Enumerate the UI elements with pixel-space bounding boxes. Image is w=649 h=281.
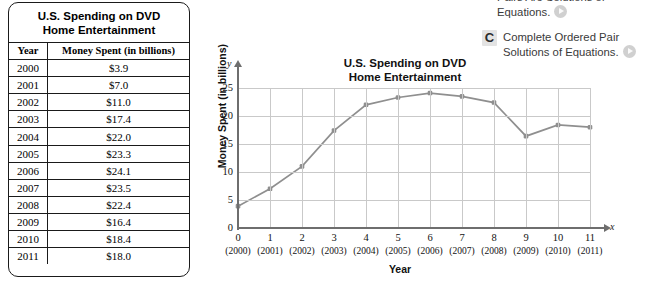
x-tick-label: 7 [445, 232, 479, 243]
cell-year: 2006 [9, 162, 48, 179]
gridline-vertical [526, 88, 527, 228]
chart-series-svg [238, 88, 590, 228]
x-tick-sublabel: (2011) [570, 246, 610, 256]
cell-year: 2008 [9, 196, 48, 213]
x-tick-label: 1 [253, 232, 287, 243]
table-row: 2005$23.3 [9, 145, 189, 162]
gridline-vertical [302, 88, 303, 228]
table-row: 2001$7.0 [9, 77, 189, 94]
table-row: 2010$18.4 [9, 231, 189, 248]
table-body: 2000$3.92001$7.02002$11.02003$17.42004$2… [9, 60, 189, 265]
cell-year: 2001 [9, 77, 48, 94]
table-row: 2002$11.0 [9, 94, 189, 111]
cell-money-spent: $11.0 [48, 94, 190, 111]
lesson-item-c-line1: Complete Ordered Pair [503, 30, 649, 45]
plot-area [238, 88, 590, 228]
cell-year: 2005 [9, 145, 48, 162]
x-tick-label: 11 [573, 232, 607, 243]
cell-money-spent: $22.0 [48, 128, 190, 145]
x-tick-label: 4 [349, 232, 383, 243]
gridline-vertical [430, 88, 431, 228]
table-row: 2008$22.4 [9, 196, 189, 213]
cell-year: 2003 [9, 111, 48, 128]
gridline-vertical [398, 88, 399, 228]
column-header-year: Year [9, 43, 48, 60]
table-title-line2: Home Entertainment [13, 23, 185, 37]
cell-money-spent: $24.1 [48, 162, 190, 179]
cell-money-spent: $7.0 [48, 77, 190, 94]
x-tick-label: 2 [285, 232, 319, 243]
gridline-vertical [334, 88, 335, 228]
table-title: U.S. Spending on DVD Home Entertainment [9, 3, 189, 43]
cell-money-spent: $3.9 [48, 60, 190, 77]
cell-money-spent: $17.4 [48, 111, 190, 128]
gridline-horizontal [238, 144, 590, 145]
lesson-item-partial-text: Pairs Are Solutions of Equations. [497, 0, 649, 20]
x-tick-label: 8 [477, 232, 511, 243]
x-axis-title: Year [320, 263, 480, 275]
cell-money-spent: $16.4 [48, 213, 190, 230]
x-axis-line [237, 227, 605, 229]
chart-title-line2: Home Entertainment [300, 71, 510, 85]
table-row: 2000$3.9 [9, 60, 189, 77]
table-title-line1: U.S. Spending on DVD [13, 9, 185, 23]
cell-year: 2002 [9, 94, 48, 111]
gridline-vertical [558, 88, 559, 228]
table-row: 2006$24.1 [9, 162, 189, 179]
cell-money-spent: $18.4 [48, 231, 190, 248]
spending-table: Year Money Spent (in billions) 2000$3.92… [9, 43, 189, 264]
lesson-item-c-line2: Solutions of Equations. [503, 46, 619, 58]
table-row: 2009$16.4 [9, 213, 189, 230]
y-axis-title: Money Spent (in billions) [216, 36, 228, 176]
gridline-vertical [366, 88, 367, 228]
y-tick-label: 5 [205, 194, 233, 205]
spending-table-panel: U.S. Spending on DVD Home Entertainment … [8, 2, 190, 277]
x-tick-label: 3 [317, 232, 351, 243]
lesson-item-c[interactable]: C Complete Ordered Pair Solutions of Equ… [482, 30, 649, 60]
lesson-item-partial[interactable]: Pairs Are Solutions of Equations. [497, 0, 649, 20]
table-header-row: Year Money Spent (in billions) [9, 43, 189, 60]
column-header-money-spent: Money Spent (in billions) [48, 43, 190, 60]
lesson-list-panel: Pairs Are Solutions of Equations. C Comp… [478, 0, 649, 70]
gridline-horizontal [238, 172, 590, 173]
x-tick-label: 5 [381, 232, 415, 243]
cell-money-spent: $23.5 [48, 179, 190, 196]
cell-money-spent: $18.0 [48, 248, 190, 265]
cell-year: 2007 [9, 179, 48, 196]
lesson-item-c-text: Complete Ordered Pair Solutions of Equat… [503, 30, 649, 60]
cell-year: 2004 [9, 128, 48, 145]
cell-year: 2009 [9, 213, 48, 230]
cell-year: 2010 [9, 231, 48, 248]
gridline-horizontal [238, 88, 590, 89]
x-tick-label: 0 [221, 232, 255, 243]
data-line [238, 93, 590, 206]
gridline-horizontal [238, 200, 590, 201]
table-row: 2003$17.4 [9, 111, 189, 128]
x-tick-label: 6 [413, 232, 447, 243]
lesson-item-partial-line2: Equations. [497, 6, 550, 18]
play-icon[interactable] [623, 45, 636, 58]
cell-year: 2000 [9, 60, 48, 77]
lesson-item-c-badge: C [482, 30, 497, 46]
table-row: 2011$18.0 [9, 248, 189, 265]
cell-money-spent: $23.3 [48, 145, 190, 162]
gridline-vertical [590, 88, 591, 228]
lesson-item-c-line2-wrap: Solutions of Equations. [503, 45, 649, 60]
y-axis-arrow-icon [234, 60, 242, 67]
gridline-vertical [270, 88, 271, 228]
gridline-vertical [494, 88, 495, 228]
play-icon[interactable] [554, 5, 567, 18]
cell-year: 2011 [9, 248, 48, 265]
gridline-vertical [462, 88, 463, 228]
x-axis-letter: x [610, 221, 614, 232]
table-row: 2007$23.5 [9, 179, 189, 196]
gridline-horizontal [238, 116, 590, 117]
lesson-item-partial-line2-wrap: Equations. [497, 5, 649, 20]
table-row: 2004$22.0 [9, 128, 189, 145]
cell-money-spent: $22.4 [48, 196, 190, 213]
x-tick-label: 9 [509, 232, 543, 243]
x-tick-label: 10 [541, 232, 575, 243]
y-axis-line [237, 66, 239, 230]
